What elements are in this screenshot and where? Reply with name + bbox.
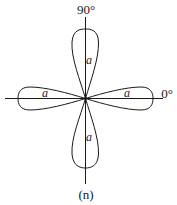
- lobe-label-top: a: [86, 53, 92, 67]
- angle-label-90: 90°: [77, 2, 95, 17]
- lobe-label-right: a: [124, 86, 130, 100]
- figure-caption: (n): [78, 187, 93, 202]
- origin-point: [84, 97, 87, 100]
- lobe-label-bottom: a: [86, 130, 92, 144]
- lobe-label-left: a: [42, 86, 48, 100]
- polar-diagram: 90° 0° a a a a (n): [0, 0, 177, 205]
- angle-label-0: 0°: [161, 86, 173, 101]
